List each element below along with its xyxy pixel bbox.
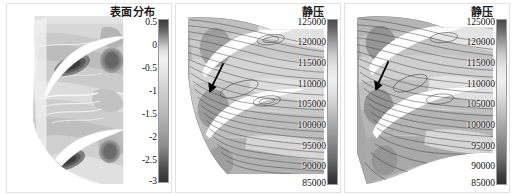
streamline-plot-static-pressure-1 [176,4,340,192]
panel-surface-distribution: 表面分布 0.5 0 -0.5 -1 -1.5 -2 -2.5 -3 [6,3,172,193]
contour-field-a [7,4,171,192]
panel-static-pressure-case-2: 静压 125000 120000 115000 110000 105000 10… [344,3,510,193]
figure-triptych: 表面分布 0.5 0 -0.5 -1 -1.5 -2 -2.5 -3 [0,0,518,195]
streamline-plot-static-pressure-2 [345,4,509,192]
panel-static-pressure-case-1: 静压 125000 120000 115000 110000 105000 10… [175,3,341,193]
contour-field-b [176,4,340,192]
contour-field-c [345,4,509,192]
contour-plot-surface-distribution [7,4,171,192]
